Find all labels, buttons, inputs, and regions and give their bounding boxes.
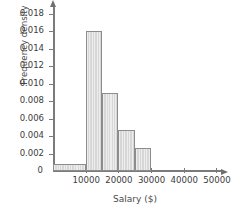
y-axis-tick: 0.014 (49, 49, 54, 50)
y-axis-tick-label: 0 (38, 165, 43, 176)
histogram-figure: Frequency density 00.0020.0040.0060.0080… (0, 0, 240, 213)
y-axis-tick-label: 0.002 (20, 148, 44, 159)
y-axis-tick-label: 0.006 (20, 113, 44, 124)
y-axis-tick: 0 (49, 171, 54, 172)
plot-area: 00.0020.0040.0060.0080.0100.0120.0140.01… (53, 6, 229, 172)
y-axis-tick: 0.016 (49, 31, 54, 32)
y-axis-tick-label: 0.008 (20, 95, 44, 106)
x-axis-title: Salary ($) (50, 194, 220, 204)
y-axis-tick-label: 0.018 (20, 8, 44, 19)
histogram-bar (86, 31, 102, 171)
y-axis-tick-label: 0.010 (20, 78, 44, 89)
y-axis-tick: 0.008 (49, 101, 54, 102)
x-axis-tick-label: 40000 (171, 175, 198, 185)
y-axis-tick-label: 0.004 (20, 130, 44, 141)
y-axis-tick: 0.006 (49, 119, 54, 120)
x-axis-tick: 40000 (184, 168, 185, 173)
y-axis-tick: 0.004 (49, 136, 54, 137)
y-axis-arrow-icon (50, 0, 56, 7)
histogram-bar (53, 164, 86, 171)
y-axis-tick-label: 0.016 (20, 25, 44, 36)
x-axis-tick-label: 50000 (203, 175, 230, 185)
y-axis-tick: 0.018 (49, 14, 54, 15)
y-axis-tick-label: 0.012 (20, 60, 44, 71)
y-axis-tick: 0.012 (49, 66, 54, 67)
histogram-bar (118, 130, 134, 171)
y-axis-tick-label: 0.014 (20, 43, 44, 54)
x-axis-tick: 30000 (151, 168, 152, 173)
histogram-bar (102, 93, 118, 171)
y-axis-tick: 0.002 (49, 154, 54, 155)
y-axis-tick: 0.010 (49, 84, 54, 85)
x-axis-tick-label: 30000 (138, 175, 165, 185)
histogram-bar (135, 148, 151, 172)
x-axis-tick-label: 10000 (73, 175, 100, 185)
x-axis-tick: 50000 (216, 168, 217, 173)
x-axis-tick-label: 20000 (105, 175, 132, 185)
